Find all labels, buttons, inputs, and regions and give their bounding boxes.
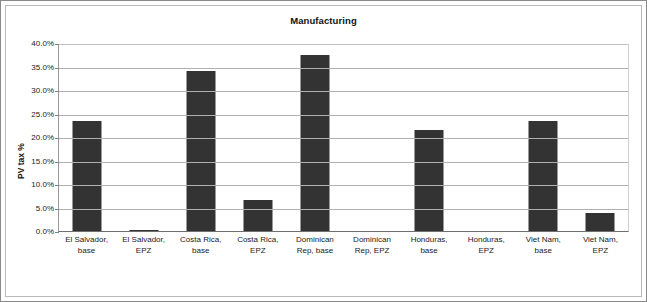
gridline	[59, 162, 628, 163]
y-axis-tick	[55, 162, 59, 163]
x-axis-tick-label-line: Costa Rica,	[180, 235, 221, 244]
x-axis-tick-label: Costa Rica,EPZ	[229, 235, 286, 256]
x-axis-tick-label-line: Honduras,	[468, 235, 505, 244]
x-axis-tick-label-line: Costa Rica,	[237, 235, 278, 244]
x-axis-tick-label-line: Viet Nam,	[526, 235, 561, 244]
y-axis-tick-label: 20.0%	[31, 133, 54, 142]
plot-area	[58, 44, 629, 232]
y-axis-tick-labels: 40.0%35.0%30.0%25.0%20.0%15.0%10.0%5.0%0…	[17, 44, 54, 232]
y-axis-tick	[55, 44, 59, 45]
bar[interactable]	[187, 71, 216, 231]
x-axis-tick-label: Costa Rica,base	[172, 235, 229, 256]
x-axis-tick-label: DominicanRep, base	[286, 235, 343, 256]
y-axis-tick-label: 35.0%	[31, 63, 54, 72]
x-axis-tick-label-line: base	[173, 246, 228, 257]
y-axis-tick	[55, 209, 59, 210]
x-axis-tick-label-line: Viet Nam,	[583, 235, 618, 244]
gridline	[59, 185, 628, 186]
gridline	[59, 44, 628, 45]
x-axis-tick-label: El Salvador,EPZ	[115, 235, 172, 256]
x-axis-tick-label-line: Dominican	[353, 235, 391, 244]
gridline	[59, 209, 628, 210]
gridline	[59, 115, 628, 116]
x-axis-tick-label-line: Rep, EPZ	[344, 246, 399, 257]
y-axis-tick	[55, 115, 59, 116]
x-axis-tick-label-line: EPZ	[459, 246, 514, 257]
x-axis-tick-label-line: Rep, base	[287, 246, 342, 257]
y-axis-tick-label: 40.0%	[31, 39, 54, 48]
y-axis-tick-label: 25.0%	[31, 110, 54, 119]
y-axis-tick-label: 0.0%	[36, 227, 54, 236]
x-axis-tick-label: El Salvador,base	[58, 235, 115, 256]
x-axis-tick-label-line: El Salvador,	[122, 235, 165, 244]
bar[interactable]	[130, 230, 159, 231]
y-axis-tick	[55, 138, 59, 139]
bar[interactable]	[585, 213, 614, 231]
x-axis-tick-label: Honduras,EPZ	[458, 235, 515, 256]
x-axis-tick-label-line: El Salvador,	[65, 235, 108, 244]
bar[interactable]	[244, 200, 273, 231]
y-axis-tick	[55, 68, 59, 69]
gridline	[59, 138, 628, 139]
x-axis-tick-label: Honduras,base	[401, 235, 458, 256]
x-axis-tick-label-line: base	[516, 246, 571, 257]
x-axis-tick-label-line: Dominican	[296, 235, 334, 244]
bar[interactable]	[301, 55, 330, 231]
y-axis-tick	[55, 185, 59, 186]
y-axis-tick-label: 5.0%	[36, 204, 54, 213]
x-axis-tick-label-line: EPZ	[573, 246, 628, 257]
y-axis-tick-label: 10.0%	[31, 180, 54, 189]
x-axis-tick-label: Viet Nam,EPZ	[572, 235, 629, 256]
x-axis-tick-label-line: EPZ	[230, 246, 285, 257]
x-axis-tick-label-line: base	[59, 246, 114, 257]
gridline	[59, 68, 628, 69]
x-axis-tick-label-line: base	[402, 246, 457, 257]
y-axis-tick	[55, 232, 59, 233]
gridline	[59, 91, 628, 92]
x-axis-tick-label-line: EPZ	[116, 246, 171, 257]
x-axis-tick-label: Viet Nam,base	[515, 235, 572, 256]
chart-screenshot: Manufacturing PV tax % 40.0%35.0%30.0%25…	[0, 0, 647, 302]
y-axis-tick-label: 30.0%	[31, 86, 54, 95]
x-axis-tick-labels: El Salvador,baseEl Salvador,EPZCosta Ric…	[58, 235, 629, 256]
x-axis-tick-label-line: Honduras,	[411, 235, 448, 244]
y-axis-tick	[55, 91, 59, 92]
x-axis-tick-label: DominicanRep, EPZ	[343, 235, 400, 256]
chart-title: Manufacturing	[1, 15, 646, 26]
y-axis-tick-label: 15.0%	[31, 157, 54, 166]
bar[interactable]	[414, 130, 443, 231]
